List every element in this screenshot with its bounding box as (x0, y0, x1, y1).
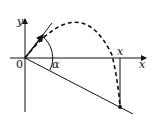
projectile-diagram: y 0 α x x (0, 0, 155, 121)
landing-x-label: x (117, 45, 124, 58)
landing-point (118, 105, 122, 109)
incline-line (25, 58, 133, 114)
origin-label: 0 (16, 58, 23, 71)
angle-label: α (52, 58, 60, 71)
y-axis-label: y (16, 15, 24, 28)
x-axis-label: x (139, 58, 146, 71)
trajectory-curve (25, 22, 120, 107)
